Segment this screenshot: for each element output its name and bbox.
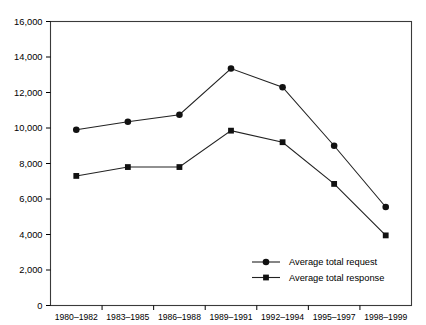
data-point-marker: [228, 65, 235, 72]
data-point-marker: [125, 164, 131, 170]
series-line: [76, 131, 385, 236]
x-tick-label: 1980–1982: [55, 312, 98, 322]
data-point-marker: [125, 118, 132, 125]
series-line: [76, 69, 385, 207]
y-tick-label: 2,000: [19, 265, 42, 275]
legend-label-1: Average total request: [289, 257, 378, 267]
legend-marker-square-icon: [263, 275, 269, 281]
y-tick-label: 8,000: [19, 159, 42, 169]
data-point-marker: [382, 204, 389, 211]
y-tick-label: 10,000: [14, 123, 42, 133]
y-tick-label: 6,000: [19, 194, 42, 204]
chart-figure: 02,0004,0006,0008,00010,00012,00014,0001…: [0, 0, 426, 325]
line-chart: 02,0004,0006,0008,00010,00012,00014,0001…: [0, 0, 426, 325]
data-point-marker: [331, 142, 338, 149]
data-point-marker: [279, 84, 286, 91]
series-2: [73, 128, 388, 239]
data-point-marker: [280, 139, 286, 145]
x-tick-label: 1986–1988: [158, 312, 201, 322]
data-point-marker: [383, 232, 389, 238]
legend-label-2: Average total response: [289, 273, 384, 283]
series-1: [73, 65, 389, 210]
data-point-marker: [176, 111, 183, 118]
data-point-marker: [73, 173, 79, 179]
x-tick-label: 1989–1991: [209, 312, 252, 322]
y-tick-label: 16,000: [14, 17, 42, 27]
x-tick-label: 1983–1985: [106, 312, 149, 322]
data-point-marker: [73, 126, 80, 133]
data-point-marker: [228, 128, 234, 134]
x-tick-label: 1995–1997: [313, 312, 356, 322]
y-tick-label: 12,000: [14, 88, 42, 98]
y-tick-label: 0: [37, 301, 42, 311]
y-tick-label: 4,000: [19, 230, 42, 240]
legend-marker-circle-icon: [263, 259, 270, 266]
x-axis: 1980–19821983–19851986–19881989–19911992…: [55, 306, 408, 323]
data-point-marker: [177, 164, 183, 170]
data-point-marker: [331, 181, 337, 187]
x-tick-label: 1992–1994: [261, 312, 304, 322]
x-tick-label: 1998–1999: [364, 312, 407, 322]
legend: Average total requestAverage total respo…: [252, 257, 384, 283]
y-axis: 02,0004,0006,0008,00010,00012,00014,0001…: [14, 17, 50, 311]
y-tick-label: 14,000: [14, 52, 42, 62]
